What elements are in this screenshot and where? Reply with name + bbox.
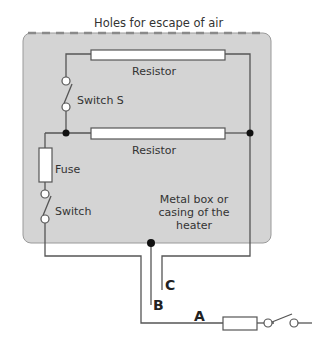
resistor-top bbox=[91, 50, 225, 60]
ext-switch-blade bbox=[272, 314, 292, 322]
fuse-label: Fuse bbox=[55, 164, 80, 175]
ext-switch-contact-left bbox=[264, 319, 272, 327]
casing-label-line2: casing of the bbox=[158, 206, 230, 219]
casing-label-line1: Metal box or bbox=[158, 193, 230, 206]
switch-s-contact-top bbox=[62, 77, 70, 85]
fuse bbox=[39, 148, 52, 182]
switch-contact-top bbox=[41, 190, 49, 198]
junction-left bbox=[63, 130, 70, 137]
external-fuse bbox=[223, 317, 257, 330]
switch-label: Switch bbox=[55, 206, 91, 217]
switch-s-contact-bottom bbox=[62, 103, 70, 111]
wire-c-label: C bbox=[165, 278, 175, 292]
wire-b-label: B bbox=[153, 298, 164, 312]
switch-contact-bottom bbox=[41, 215, 49, 223]
junction-right bbox=[247, 130, 254, 137]
resistor-bottom bbox=[91, 128, 225, 139]
wire-a-label: A bbox=[194, 309, 205, 323]
title-label: Holes for escape of air bbox=[94, 18, 223, 30]
resistor-bottom-label: Resistor bbox=[132, 145, 176, 156]
resistor-top-label: Resistor bbox=[132, 66, 176, 77]
junction-earth bbox=[147, 239, 155, 247]
switch-s-label: Switch S bbox=[77, 95, 124, 106]
ext-switch-contact-right bbox=[290, 319, 298, 327]
casing-label-line3: heater bbox=[158, 219, 230, 232]
casing-label: Metal box or casing of the heater bbox=[158, 193, 230, 233]
